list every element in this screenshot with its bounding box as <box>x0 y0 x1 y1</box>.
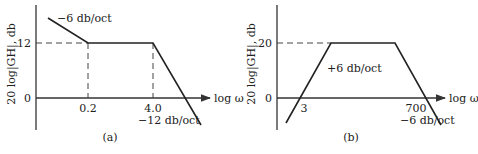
x-tick-0-2: 0.2 <box>79 102 97 115</box>
y-tick-0-b: 0 <box>265 92 272 105</box>
y-axis-label-a: 20 log|GH|, db <box>5 23 19 105</box>
slope-label-minus6-b: −6 db/oct <box>400 114 455 127</box>
x-axis-label-a: log ω <box>214 92 244 105</box>
panel-b: 20 log|GH|, db 20 0 3 700 log ω +6 db/oc… <box>245 5 478 144</box>
caption-a: (a) <box>102 131 117 144</box>
y-axis-label-b: 20 log|GH|, db <box>245 23 259 105</box>
slope-label-minus6-a: −6 db/oct <box>57 12 112 25</box>
y-tick-12: 12 <box>17 37 31 50</box>
y-tick-0-a: 0 <box>24 92 31 105</box>
x-axis-label-b: log ω <box>449 92 478 105</box>
y-tick-20: 20 <box>258 37 272 50</box>
bode-diagram: 20 log|GH|, db 12 0 0.2 4.0 log ω −6 db/… <box>0 0 478 154</box>
caption-b: (b) <box>343 131 359 144</box>
x-tick-3: 3 <box>301 102 308 115</box>
slope-label-plus6-b: +6 db/oct <box>327 62 382 75</box>
panel-a: 20 log|GH|, db 12 0 0.2 4.0 log ω −6 db/… <box>5 5 244 144</box>
asymptote-curve-a <box>48 18 201 125</box>
slope-label-minus12-a: −12 db/oct <box>138 114 200 127</box>
